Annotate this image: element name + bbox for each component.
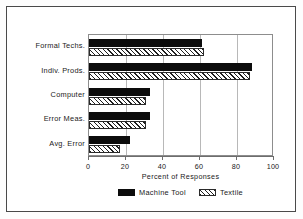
bar-textile xyxy=(89,48,204,56)
x-axis xyxy=(88,156,273,157)
y-axis-tick-label: Indiv. Prods. xyxy=(3,66,85,75)
x-axis-tick xyxy=(236,156,237,160)
chart-legend: Machine ToolTextile xyxy=(88,186,273,198)
bar-textile xyxy=(89,72,250,80)
bar-machine-tool xyxy=(89,136,130,144)
chart-figure: Formal Techs.Indiv. Prods.ComputerError … xyxy=(0,0,303,219)
x-axis-tick-label: 60 xyxy=(195,162,203,171)
bar-textile xyxy=(89,97,146,105)
x-axis-tick xyxy=(88,156,89,160)
bar-machine-tool xyxy=(89,63,252,71)
bar-textile xyxy=(89,145,120,153)
legend-entry: Textile xyxy=(199,188,243,197)
legend-label: Textile xyxy=(220,188,243,197)
x-axis-label: Percent of Responses xyxy=(88,172,273,181)
x-axis-tick-label: 80 xyxy=(232,162,240,171)
x-axis-tick xyxy=(199,156,200,160)
hatched-swatch xyxy=(199,189,216,196)
plot-area xyxy=(88,34,273,156)
x-axis-tick xyxy=(125,156,126,160)
y-axis-tick-label: Computer xyxy=(3,90,85,99)
bar-machine-tool xyxy=(89,112,150,120)
x-axis-tick-label: 0 xyxy=(86,162,90,171)
y-axis-tick-label: Error Meas. xyxy=(3,114,85,123)
y-axis-tick-label: Formal Techs. xyxy=(3,41,85,50)
legend-entry: Machine Tool xyxy=(118,188,186,197)
legend-label: Machine Tool xyxy=(139,188,186,197)
solid-black-swatch xyxy=(118,189,135,196)
y-axis-tick-label: Avg. Error xyxy=(3,139,85,148)
bar-machine-tool xyxy=(89,88,150,96)
x-axis-tick-label: 40 xyxy=(158,162,166,171)
bar-machine-tool xyxy=(89,39,202,47)
x-axis-tick xyxy=(273,156,274,160)
x-axis-tick-label: 100 xyxy=(267,162,280,171)
x-axis-tick-label: 20 xyxy=(121,162,129,171)
x-axis-tick xyxy=(162,156,163,160)
bar-textile xyxy=(89,121,146,129)
y-axis-category-labels: Formal Techs.Indiv. Prods.ComputerError … xyxy=(0,34,85,156)
gridline xyxy=(237,35,238,155)
